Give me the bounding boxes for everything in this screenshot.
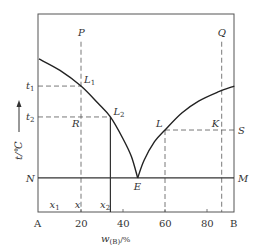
y-axis-label: t/℃: [13, 141, 24, 160]
x-axis-label: w(B)/%: [101, 233, 131, 246]
x-tick-label: 80: [201, 218, 214, 229]
composition-label-x1: x1: [50, 199, 60, 212]
point-label-E: E: [133, 181, 142, 192]
point-label-P: P: [77, 27, 85, 38]
temp-label-t2: t2: [26, 111, 35, 124]
point-label-L: L: [155, 118, 163, 129]
composition-label-x2: x2: [100, 199, 110, 212]
phase-diagram: t/℃ A B 20406080 w(B)/% PQL1L2RLKSNMEt1t…: [0, 0, 256, 250]
point-label-L2: L2: [112, 106, 124, 119]
x-tick-label: 20: [75, 218, 88, 229]
point-label-M: M: [237, 173, 249, 184]
composition-label-x: x: [75, 199, 81, 210]
y-axis-arrow-icon: [17, 100, 22, 132]
x-end-label-B: B: [230, 218, 237, 229]
point-label-L1: L1: [83, 74, 95, 87]
point-label-K: K: [211, 118, 220, 129]
x-tick-label: 40: [117, 218, 130, 229]
right-liquidus-curve: [138, 86, 235, 178]
x-end-label-A: A: [33, 218, 42, 229]
point-label-R: R: [71, 118, 80, 129]
point-label-S: S: [238, 125, 245, 136]
point-label-N: N: [25, 173, 36, 184]
x-tick-label: 60: [159, 218, 172, 229]
point-label-Q: Q: [218, 27, 226, 38]
temp-label-t1: t1: [26, 80, 35, 93]
